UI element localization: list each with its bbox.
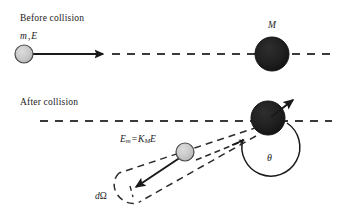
projectile-mass-symbol: m: [20, 31, 27, 41]
projectile-label: m,E: [20, 32, 37, 42]
cone-cap-arc: [114, 173, 141, 203]
projectile-particle: [15, 45, 33, 63]
cone-lower-edge: [141, 136, 256, 201]
solid-angle-label: dΩ: [95, 192, 107, 202]
diagram-canvas: [0, 0, 341, 218]
energy-lhs-subscript: m: [126, 137, 131, 144]
before-collision-group: [15, 37, 332, 71]
scattering-angle-label: θ: [267, 153, 272, 163]
target-nucleus: [255, 37, 289, 71]
scattered-energy-equation: Em=KME: [120, 135, 156, 145]
energy-rhs-base: E: [150, 134, 156, 144]
cone-mouth-tick: [130, 186, 133, 197]
before-collision-title: Before collision: [20, 14, 84, 24]
after-collision-title: After collision: [20, 98, 78, 108]
projectile-energy-symbol: E: [31, 31, 37, 41]
after-collision-group: [40, 100, 332, 203]
scattered-particle: [176, 143, 194, 161]
scattering-diagram: Before collision m,E M After collision E…: [0, 0, 341, 218]
recoil-nucleus: [251, 101, 285, 135]
scattered-momentum-arrow: [136, 157, 181, 187]
solid-angle-omega-symbol: Ω: [100, 191, 107, 201]
target-mass-label: M: [268, 21, 276, 31]
equals-sign: =: [131, 134, 138, 144]
